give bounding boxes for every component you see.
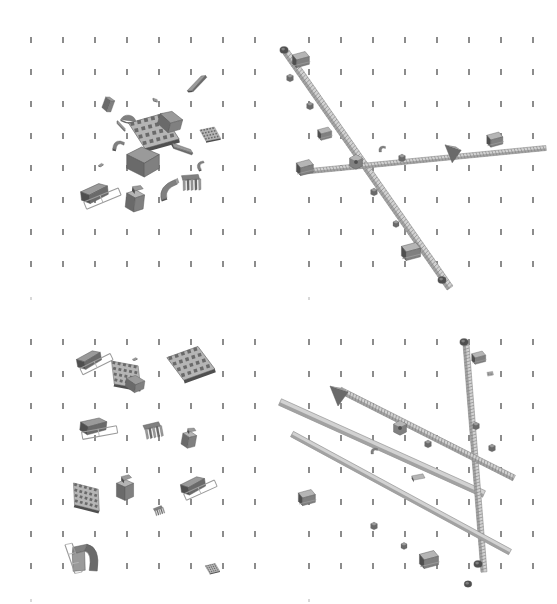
arc-shell-rail <box>61 539 106 580</box>
scene-bottom-right <box>278 302 557 604</box>
scene-top-right <box>278 0 557 302</box>
thin-plate <box>151 96 160 105</box>
rod-segment-thin <box>184 73 210 96</box>
bracket-small <box>193 157 209 172</box>
small-chip-a <box>132 357 138 362</box>
frame-rail-assembly <box>75 177 126 213</box>
small-lattice-tab <box>200 126 223 144</box>
angled-block-small <box>99 95 117 115</box>
frame-rail-assembly-b <box>75 412 124 447</box>
panel-bottom-left[interactable] <box>0 302 279 604</box>
comb-small <box>152 505 166 518</box>
main-cube-body <box>124 145 162 180</box>
tiny-lattice <box>205 563 221 576</box>
rod-assembly <box>278 302 557 604</box>
block-wedge-a <box>123 373 147 396</box>
flat-chip <box>97 162 104 168</box>
lattice-plate-c <box>66 481 108 516</box>
lattice-plate-b <box>166 343 220 387</box>
panel-bottom-right[interactable] <box>278 302 557 604</box>
scene-bottom-left <box>0 302 279 604</box>
render-canvas <box>0 0 557 604</box>
comb-bracket-a <box>141 421 165 442</box>
rod-assembly <box>278 0 557 302</box>
stepped-block-a <box>177 426 201 453</box>
panel-top-right[interactable] <box>278 0 557 302</box>
frame-rail-assembly-c <box>175 470 222 504</box>
panel-top-left[interactable] <box>0 0 279 302</box>
stepped-block <box>121 184 150 217</box>
block-tower <box>113 475 138 504</box>
scene-top-left <box>0 0 279 302</box>
comb-bracket <box>178 172 204 194</box>
